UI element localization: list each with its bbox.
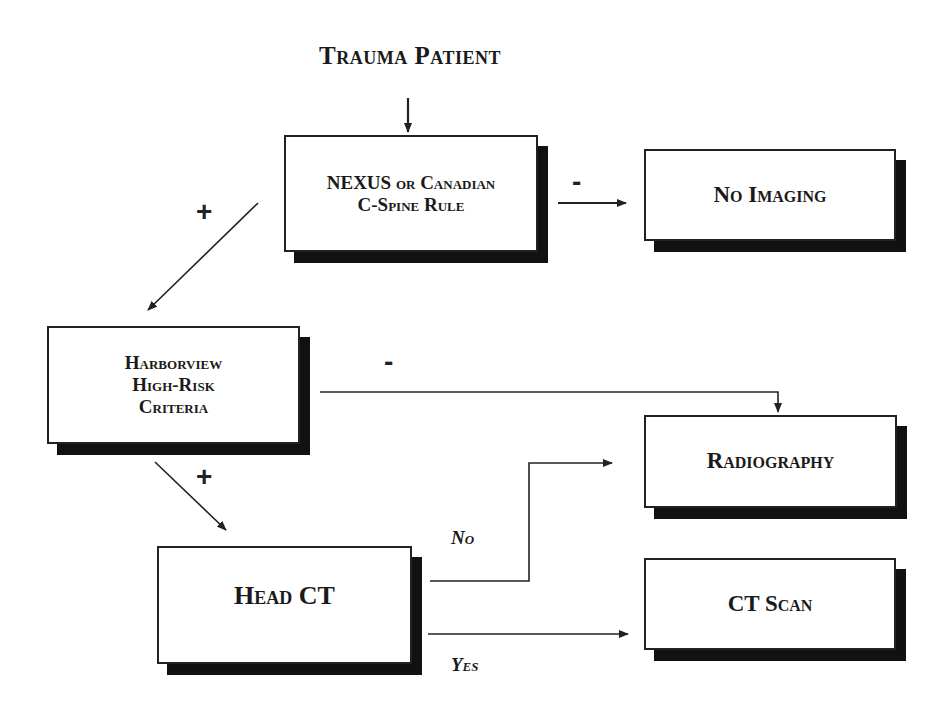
node-label: No Imaging <box>713 182 826 208</box>
node-label: Radiography <box>707 448 835 474</box>
node-no-imaging: No Imaging <box>644 149 896 241</box>
node-label: High-Risk <box>125 374 222 396</box>
node-label: Head CT <box>234 581 335 611</box>
node-head-ct: Head CT <box>157 546 412 664</box>
arrow-harborview-to-radiography <box>320 392 778 412</box>
edge-label-harborview-negative: - <box>384 346 393 378</box>
node-label: Harborview <box>125 352 222 374</box>
edge-label-nexus-negative: - <box>572 166 581 198</box>
node-label: Criteria <box>125 396 222 418</box>
node-radiography: Radiography <box>644 415 897 508</box>
edge-label-nexus-positive: + <box>196 196 212 228</box>
node-ct-scan: CT Scan <box>644 558 896 650</box>
arrow-harborview-to-head-ct <box>155 462 226 530</box>
node-label: C-Spine Rule <box>327 194 496 216</box>
edge-label-head-ct-yes: Yes <box>451 654 479 676</box>
node-harborview-high-risk: Harborview High-Risk Criteria <box>47 326 300 444</box>
edge-label-head-ct-no: No <box>451 527 474 549</box>
node-label: NEXUS or Canadian <box>327 172 496 194</box>
node-label: CT Scan <box>728 591 813 617</box>
arrow-head-ct-no-to-radiography <box>430 463 612 581</box>
diagram-title: Trauma Patient <box>285 42 535 70</box>
node-nexus-canadian-c-spine: NEXUS or Canadian C-Spine Rule <box>284 135 538 252</box>
edge-label-harborview-positive: + <box>196 461 212 493</box>
